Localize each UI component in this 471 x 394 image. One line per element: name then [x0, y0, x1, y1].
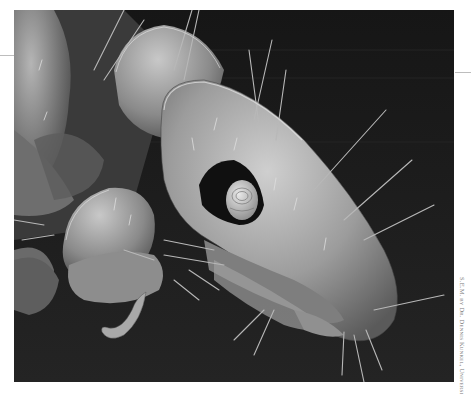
page: S.E.M. by Dr. Dennis Kunkel, University … [0, 0, 471, 394]
sem-micrograph [14, 10, 454, 382]
margin-rule-right [455, 72, 471, 73]
photo-credit: S.E.M. by Dr. Dennis Kunkel, University … [456, 277, 468, 383]
margin-rule-left [0, 55, 14, 56]
